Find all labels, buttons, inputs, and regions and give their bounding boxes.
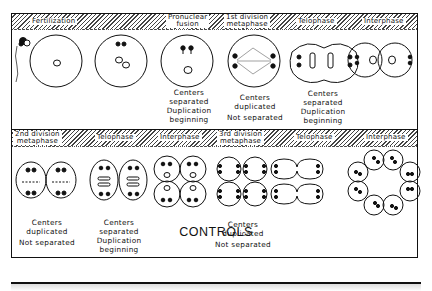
caption-line: Duplication: [166, 106, 212, 115]
caption-line: Centers: [226, 93, 284, 102]
caption-line: beginning: [166, 115, 212, 124]
figure-title: CONTROLS: [0, 225, 432, 239]
caption-line: Centers: [297, 89, 349, 98]
sperm-icon: [16, 38, 31, 83]
caption-telophase: Centers separated Duplication beginning: [297, 89, 349, 125]
caption-line: Not separated: [212, 240, 274, 249]
caption-line: Not separated: [16, 238, 78, 247]
caption-line: Centers: [166, 88, 212, 97]
caption-line: separated: [297, 98, 349, 107]
caption-line: beginning: [297, 116, 349, 125]
caption-line: duplicated: [226, 102, 284, 111]
caption-line: separated: [166, 97, 212, 106]
caption-1st-division-metaphase: Centers duplicated Not separated: [226, 93, 284, 122]
caption-line: beginning: [93, 245, 145, 254]
caption-line: Duplication: [297, 107, 349, 116]
caption-pronuclear-fusion: Centers separated Duplication beginning: [166, 88, 212, 124]
next-panel-edge: [11, 282, 421, 291]
interphase-ring: [348, 150, 420, 215]
caption-line: Not separated: [226, 113, 284, 122]
